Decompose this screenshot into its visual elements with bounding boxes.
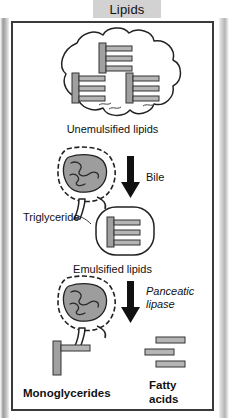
- label-unemulsified-lipids: Unemulsified lipids: [13, 123, 212, 135]
- intestine-icon-bile: [58, 147, 115, 219]
- label-triglyceride-callout: Triglyceride: [23, 211, 79, 223]
- label-fatty-acids-line2: acids: [149, 393, 178, 405]
- label-bile: Bile: [146, 171, 164, 183]
- page-title: Lipids: [93, 0, 161, 18]
- monoglyceride-molecule: [53, 341, 90, 375]
- left-page-shadow: [0, 18, 9, 418]
- diagram-panel: Unemulsified lipids Bile Triglyceride Em…: [11, 21, 214, 411]
- triglyceride-molecule: [107, 217, 140, 247]
- bile-arrow-icon: [121, 156, 140, 198]
- label-monoglycerides: Monoglycerides: [23, 387, 111, 399]
- unemulsified-lipid-globule: [62, 28, 181, 116]
- intestine-icon-lipase: [58, 276, 115, 348]
- triglyceride-molecule: [126, 73, 159, 103]
- micelle-droplet: [75, 207, 154, 255]
- right-page-shadow: [219, 18, 229, 418]
- label-pancreatic-lipase: Panceatic lipase: [146, 285, 208, 310]
- label-fatty-acids-line1: Fatty: [149, 379, 176, 391]
- label-emulsified-lipids: Emulsified lipids: [13, 263, 212, 275]
- triglyceride-molecule: [72, 73, 105, 103]
- fatty-acid-molecules: [145, 337, 185, 367]
- triglyceride-molecule: [99, 43, 132, 73]
- lipase-arrow-icon: [121, 281, 140, 323]
